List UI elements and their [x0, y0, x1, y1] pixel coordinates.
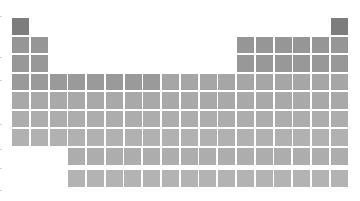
element-cell-p3-g2[interactable]: [31, 55, 48, 72]
element-cell-p3-g14[interactable]: [256, 55, 273, 72]
lanthanides-cell-6[interactable]: [162, 148, 179, 165]
element-cell-p5-g14[interactable]: [256, 92, 273, 109]
element-cell-p6-g15[interactable]: [275, 111, 292, 128]
element-cell-p7-g16[interactable]: [293, 129, 310, 146]
actinides-cell-15[interactable]: [331, 170, 348, 187]
element-cell-p1-g1[interactable]: [12, 18, 29, 35]
element-cell-p5-g2[interactable]: [31, 92, 48, 109]
element-cell-p4-g15[interactable]: [275, 74, 292, 91]
lanthanides-cell-12[interactable]: [274, 148, 291, 165]
element-cell-p6-g1[interactable]: [12, 111, 29, 128]
actinides-cell-4[interactable]: [124, 170, 141, 187]
element-cell-p5-g18[interactable]: [331, 92, 348, 109]
element-cell-p4-g1[interactable]: [12, 74, 29, 91]
lanthanides-cell-9[interactable]: [218, 148, 235, 165]
element-cell-p4-g16[interactable]: [293, 74, 310, 91]
element-cell-p1-g18[interactable]: [331, 18, 348, 35]
element-cell-p5-g12[interactable]: [218, 92, 235, 109]
element-cell-p3-g13[interactable]: [237, 55, 254, 72]
element-cell-p7-g9[interactable]: [162, 129, 179, 146]
element-cell-p5-g15[interactable]: [275, 92, 292, 109]
element-cell-p5-g6[interactable]: [106, 92, 123, 109]
element-cell-p4-g3[interactable]: [50, 74, 67, 91]
element-cell-p6-g12[interactable]: [218, 111, 235, 128]
lanthanides-cell-4[interactable]: [124, 148, 141, 165]
element-cell-p4-g12[interactable]: [218, 74, 235, 91]
element-cell-p4-g8[interactable]: [143, 74, 160, 91]
actinides-cell-2[interactable]: [87, 170, 104, 187]
element-cell-p5-g5[interactable]: [87, 92, 104, 109]
lanthanides-cell-2[interactable]: [87, 148, 104, 165]
element-cell-p3-g1[interactable]: [12, 55, 29, 72]
lanthanides-cell-3[interactable]: [106, 148, 123, 165]
element-cell-p4-g9[interactable]: [162, 74, 179, 91]
lanthanides-cell-13[interactable]: [293, 148, 310, 165]
element-cell-p7-g17[interactable]: [312, 129, 329, 146]
element-cell-p3-g15[interactable]: [275, 55, 292, 72]
element-cell-p6-g18[interactable]: [331, 111, 348, 128]
element-cell-p6-g2[interactable]: [31, 111, 48, 128]
lanthanides-cell-11[interactable]: [256, 148, 273, 165]
element-cell-p7-g11[interactable]: [200, 129, 217, 146]
element-cell-p5-g16[interactable]: [293, 92, 310, 109]
element-cell-p5-g13[interactable]: [237, 92, 254, 109]
actinides-cell-12[interactable]: [274, 170, 291, 187]
element-cell-p6-g5[interactable]: [87, 111, 104, 128]
element-cell-p2-g14[interactable]: [256, 37, 273, 54]
element-cell-p4-g10[interactable]: [181, 74, 198, 91]
element-cell-p7-g2[interactable]: [31, 129, 48, 146]
element-cell-p5-g3[interactable]: [50, 92, 67, 109]
element-cell-p7-g10[interactable]: [181, 129, 198, 146]
actinides-cell-7[interactable]: [181, 170, 198, 187]
element-cell-p7-g6[interactable]: [106, 129, 123, 146]
element-cell-p6-g4[interactable]: [68, 111, 85, 128]
element-cell-p4-g11[interactable]: [200, 74, 217, 91]
actinides-cell-10[interactable]: [237, 170, 254, 187]
lanthanides-cell-14[interactable]: [312, 148, 329, 165]
element-cell-p6-g3[interactable]: [50, 111, 67, 128]
element-cell-p6-g11[interactable]: [200, 111, 217, 128]
lanthanides-cell-5[interactable]: [143, 148, 160, 165]
element-cell-p7-g13[interactable]: [237, 129, 254, 146]
element-cell-p5-g8[interactable]: [143, 92, 160, 109]
actinides-cell-14[interactable]: [312, 170, 329, 187]
element-cell-p5-g7[interactable]: [125, 92, 142, 109]
element-cell-p6-g6[interactable]: [106, 111, 123, 128]
element-cell-p5-g4[interactable]: [68, 92, 85, 109]
actinides-cell-11[interactable]: [256, 170, 273, 187]
actinides-cell-8[interactable]: [199, 170, 216, 187]
element-cell-p7-g7[interactable]: [125, 129, 142, 146]
element-cell-p6-g10[interactable]: [181, 111, 198, 128]
element-cell-p4-g18[interactable]: [331, 74, 348, 91]
element-cell-p6-g8[interactable]: [143, 111, 160, 128]
element-cell-p4-g4[interactable]: [68, 74, 85, 91]
element-cell-p4-g6[interactable]: [106, 74, 123, 91]
actinides-cell-5[interactable]: [143, 170, 160, 187]
element-cell-p6-g16[interactable]: [293, 111, 310, 128]
element-cell-p6-g9[interactable]: [162, 111, 179, 128]
element-cell-p3-g16[interactable]: [293, 55, 310, 72]
actinides-cell-9[interactable]: [218, 170, 235, 187]
actinides-cell-13[interactable]: [293, 170, 310, 187]
element-cell-p4-g17[interactable]: [312, 74, 329, 91]
lanthanides-cell-15[interactable]: [331, 148, 348, 165]
actinides-cell-6[interactable]: [162, 170, 179, 187]
element-cell-p6-g17[interactable]: [312, 111, 329, 128]
element-cell-p3-g18[interactable]: [331, 55, 348, 72]
element-cell-p4-g5[interactable]: [87, 74, 104, 91]
element-cell-p2-g16[interactable]: [293, 37, 310, 54]
element-cell-p5-g17[interactable]: [312, 92, 329, 109]
element-cell-p5-g9[interactable]: [162, 92, 179, 109]
element-cell-p7-g15[interactable]: [275, 129, 292, 146]
element-cell-p7-g4[interactable]: [68, 129, 85, 146]
element-cell-p2-g17[interactable]: [312, 37, 329, 54]
element-cell-p7-g5[interactable]: [87, 129, 104, 146]
element-cell-p4-g7[interactable]: [125, 74, 142, 91]
element-cell-p2-g18[interactable]: [331, 37, 348, 54]
element-cell-p5-g11[interactable]: [200, 92, 217, 109]
lanthanides-cell-8[interactable]: [199, 148, 216, 165]
lanthanides-cell-1[interactable]: [68, 148, 85, 165]
actinides-cell-1[interactable]: [68, 170, 85, 187]
element-cell-p2-g15[interactable]: [275, 37, 292, 54]
element-cell-p5-g10[interactable]: [181, 92, 198, 109]
